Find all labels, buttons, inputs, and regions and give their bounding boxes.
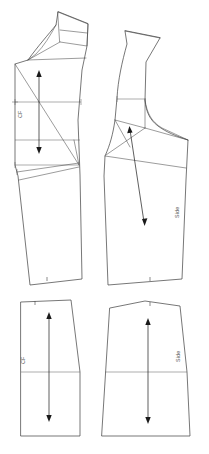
bodice-side-waist-line bbox=[105, 156, 186, 168]
bodice-front-outline bbox=[15, 12, 88, 285]
bodice-front-label: CF bbox=[17, 110, 23, 118]
piece-bodice-front-cf[interactable]: CF bbox=[12, 12, 88, 285]
bodice-front-shoulder-quad bbox=[58, 12, 88, 46]
pattern-sheet: CF Side bbox=[0, 0, 209, 454]
bodice-side-shoulder-line bbox=[125, 31, 160, 38]
bodice-side-dart-diagonal bbox=[106, 128, 145, 155]
piece-skirt-side[interactable]: Side bbox=[102, 301, 190, 436]
pattern-drawing: CF Side bbox=[0, 0, 209, 454]
bodice-front-slash-upper bbox=[17, 163, 79, 172]
bodice-front-diagonal-dart bbox=[15, 64, 79, 165]
bodice-front-underarm-line bbox=[28, 58, 86, 60]
bodice-front-shoulder-line bbox=[60, 30, 87, 33]
piece-skirt-front-cf[interactable]: CF bbox=[20, 300, 80, 436]
bodice-front-span-arrow-left bbox=[12, 99, 18, 105]
bodice-side-dart-leg bbox=[115, 120, 130, 147]
bodice-front-grainline bbox=[36, 70, 41, 154]
bodice-side-label: Side bbox=[174, 207, 180, 218]
skirt-side-outline bbox=[102, 301, 190, 436]
skirt-front-label: CF bbox=[20, 356, 26, 364]
skirt-side-label: Side bbox=[175, 351, 181, 362]
bodice-side-dart-upper-left bbox=[115, 120, 145, 128]
bodice-side-grainline bbox=[127, 126, 147, 226]
bodice-side-outline bbox=[104, 31, 188, 285]
piece-bodice-side[interactable]: Side bbox=[104, 31, 188, 285]
skirt-side-grainline bbox=[145, 318, 150, 424]
skirt-front-grainline bbox=[46, 312, 51, 422]
bodice-front-slash-lower bbox=[19, 167, 79, 180]
